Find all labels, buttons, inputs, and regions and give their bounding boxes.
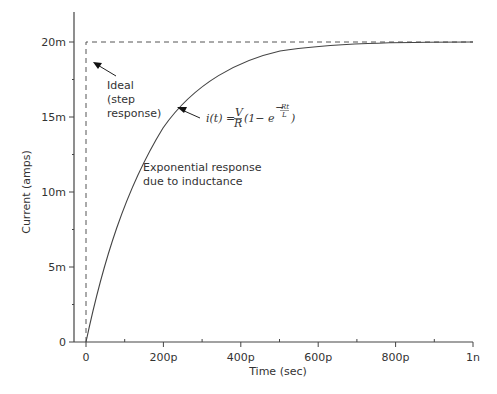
y-axis-label: Current (amps) <box>20 150 33 234</box>
formula-lhs: i(t) = <box>206 112 235 125</box>
arrow-head-icon <box>93 62 102 69</box>
formula-annotation: i(t) = V R (1− e − Rt L ) <box>177 101 295 130</box>
y-tick-labels: 0 5m 10m 15m 20m <box>41 36 66 349</box>
step-response-chart: 0 5m 10m 15m 20m 0 200p 400p 600p 800p 1… <box>0 0 497 394</box>
exponential-response-curve <box>86 42 473 342</box>
formula-close: ) <box>290 112 295 125</box>
exp-label-line2: due to inductance <box>143 175 243 188</box>
formula-exp-num: Rt <box>280 103 289 111</box>
ideal-step-response-line <box>86 42 473 342</box>
x-tick-label: 800p <box>382 351 410 364</box>
formula-paren: (1− e <box>244 112 275 125</box>
exponential-annotation: Exponential response due to inductance <box>143 161 262 188</box>
y-tick-label: 15m <box>41 111 66 124</box>
x-tick-label: 0 <box>83 351 90 364</box>
y-tick-label: 5m <box>48 261 66 274</box>
exp-label-line1: Exponential response <box>143 161 262 174</box>
ideal-label-line3: response) <box>107 107 161 120</box>
y-tick-label: 0 <box>59 336 66 349</box>
x-ticks <box>86 339 473 347</box>
y-ticks <box>69 42 74 342</box>
y-tick-label: 20m <box>41 36 66 49</box>
formula-exp-den: L <box>281 111 287 119</box>
x-tick-labels: 0 200p 400p 600p 800p 1n <box>83 351 481 364</box>
x-tick-label: 400p <box>227 351 255 364</box>
ideal-label-line2: (step <box>107 93 135 106</box>
formula-R: R <box>233 117 242 130</box>
ideal-label-line1: Ideal <box>107 79 134 92</box>
ideal-annotation: Ideal (step response) <box>93 62 161 120</box>
x-tick-label: 1n <box>466 351 480 364</box>
x-tick-label: 200p <box>149 351 177 364</box>
x-tick-label: 600p <box>304 351 332 364</box>
x-axis-label: Time (sec) <box>248 365 307 378</box>
y-tick-label: 10m <box>41 186 66 199</box>
